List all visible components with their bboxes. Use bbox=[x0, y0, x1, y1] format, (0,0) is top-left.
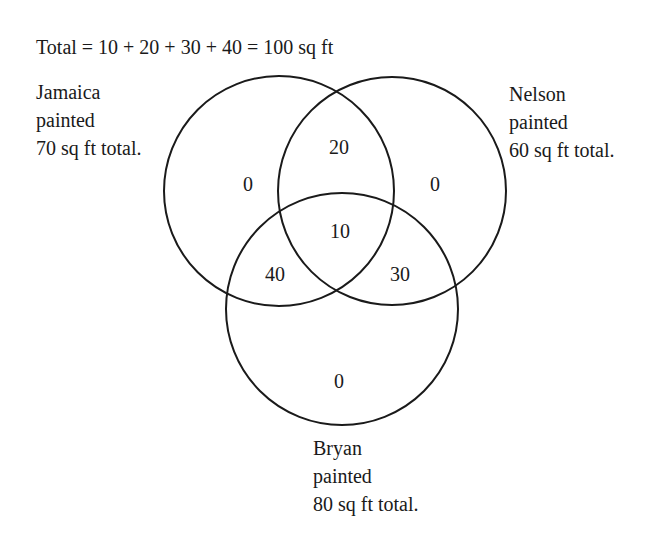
label-jamaica-line-1: Jamaica bbox=[36, 78, 142, 106]
venn-diagram: Total = 10 + 20 + 30 + 40 = 100 sq ft Ja… bbox=[0, 0, 654, 546]
region-nelson-only: 0 bbox=[430, 173, 440, 196]
label-jamaica-line-2: painted bbox=[36, 106, 142, 134]
label-jamaica-line-3: 70 sq ft total. bbox=[36, 134, 142, 162]
label-nelson: Nelson painted 60 sq ft total. bbox=[509, 80, 615, 164]
region-jamaica-only: 0 bbox=[243, 173, 253, 196]
label-bryan: Bryan painted 80 sq ft total. bbox=[313, 434, 419, 518]
label-nelson-line-2: painted bbox=[509, 108, 615, 136]
region-bryan-only: 0 bbox=[334, 370, 344, 393]
label-nelson-line-1: Nelson bbox=[509, 80, 615, 108]
region-nelson-bryan: 30 bbox=[390, 263, 410, 286]
region-jamaica-bryan: 40 bbox=[265, 263, 285, 286]
label-bryan-line-2: painted bbox=[313, 462, 419, 490]
region-jamaica-nelson: 20 bbox=[329, 136, 349, 159]
label-bryan-line-1: Bryan bbox=[313, 434, 419, 462]
label-nelson-line-3: 60 sq ft total. bbox=[509, 136, 615, 164]
region-all-three: 10 bbox=[330, 220, 350, 243]
label-bryan-line-3: 80 sq ft total. bbox=[313, 490, 419, 518]
label-jamaica: Jamaica painted 70 sq ft total. bbox=[36, 78, 142, 162]
